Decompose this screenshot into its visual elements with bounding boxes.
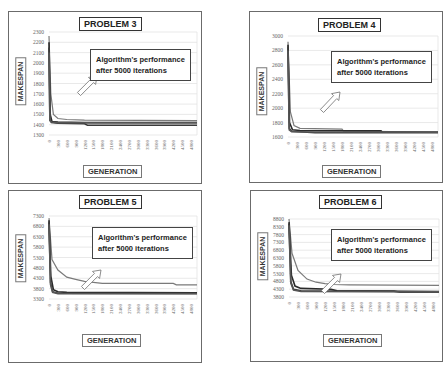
svg-text:3900: 3900 [162,140,167,151]
chart-panel-problem-4: 1600180020002200240026002800300003006009… [249,11,443,183]
x-axis-label: GENERATION [323,334,382,347]
svg-text:3800: 3800 [33,286,44,292]
svg-text:0: 0 [47,140,52,143]
svg-text:3300: 3300 [145,140,150,151]
svg-text:5300: 5300 [33,255,44,261]
svg-text:6300: 6300 [33,234,44,240]
svg-text:2400: 2400 [118,140,123,151]
arrow-icon [318,89,343,115]
svg-text:4500: 4500 [180,304,185,315]
svg-text:900: 900 [74,304,79,312]
svg-text:4200: 4200 [171,304,176,315]
x-axis-label: GENERATION [322,165,381,178]
svg-text:2700: 2700 [127,140,132,151]
chart-title: PROBLEM 6 [319,195,382,209]
y-axis-label: MAKESPAN [15,235,26,283]
svg-text:7300: 7300 [273,239,284,245]
annotation-box: Algorithm's performance after 5000 itera… [331,51,432,83]
svg-text:5800: 5800 [33,244,44,250]
svg-text:7300: 7300 [33,213,44,219]
annotation-line-2: after 5000 iterations [337,245,426,256]
svg-text:6800: 6800 [33,223,44,229]
svg-text:600: 600 [65,140,70,148]
svg-text:900: 900 [74,140,79,148]
svg-text:4800: 4800 [33,265,44,271]
svg-text:1500: 1500 [332,302,337,313]
svg-text:4800: 4800 [273,278,284,284]
svg-text:1800: 1800 [100,140,105,151]
svg-text:2600: 2600 [272,62,283,68]
svg-text:3000: 3000 [376,142,381,153]
svg-text:600: 600 [304,142,309,150]
chart-title: PROBLEM 4 [318,18,381,32]
svg-text:2700: 2700 [367,142,372,153]
svg-text:2400: 2400 [272,76,283,82]
svg-text:1700: 1700 [33,91,44,97]
svg-text:3300: 3300 [145,304,150,315]
chart-panel-problem-3: 1300140015001600170018001900200021002200… [8,11,202,184]
svg-text:2700: 2700 [127,304,132,315]
svg-text:1500: 1500 [33,111,44,117]
svg-text:1200: 1200 [323,302,328,313]
annotation-box: Algorithm's performance after 5000 itera… [92,227,193,259]
svg-text:2400: 2400 [358,142,363,153]
svg-text:600: 600 [305,302,310,310]
svg-text:2100: 2100 [349,142,354,153]
svg-text:2200: 2200 [33,39,44,45]
svg-text:2300: 2300 [33,29,44,35]
svg-text:2100: 2100 [109,140,114,151]
svg-text:3000: 3000 [136,304,141,315]
chart-panel-problem-6: 3800430048005300580063006800730078008300… [250,190,443,362]
svg-text:4800: 4800 [431,302,436,313]
svg-text:4300: 4300 [273,286,284,292]
svg-text:2800: 2800 [272,47,283,53]
svg-text:3600: 3600 [394,142,399,153]
svg-text:1800: 1800 [33,81,44,87]
svg-text:3300: 3300 [33,296,44,302]
svg-text:1800: 1800 [341,302,346,313]
svg-text:2700: 2700 [368,302,373,313]
annotation-line-1: Algorithm's performance [98,232,187,243]
svg-text:4200: 4200 [412,142,417,153]
svg-text:3000: 3000 [136,140,141,151]
svg-text:4500: 4500 [422,302,427,313]
svg-text:3900: 3900 [162,304,167,315]
svg-text:2100: 2100 [350,302,355,313]
svg-text:1600: 1600 [33,101,44,107]
svg-text:4200: 4200 [171,140,176,151]
svg-text:1200: 1200 [322,142,327,153]
svg-text:1600: 1600 [272,134,283,140]
chart-title: PROBLEM 3 [79,17,142,31]
svg-text:300: 300 [56,140,61,148]
svg-text:900: 900 [313,142,318,150]
svg-text:2000: 2000 [33,60,44,66]
svg-text:4200: 4200 [413,302,418,313]
svg-text:1500: 1500 [91,140,96,151]
svg-text:4800: 4800 [430,142,435,153]
svg-text:3600: 3600 [154,140,159,151]
svg-text:8800: 8800 [273,216,284,222]
svg-text:1800: 1800 [272,120,283,126]
svg-text:900: 900 [314,302,319,310]
svg-text:2400: 2400 [359,302,364,313]
svg-text:3000: 3000 [377,302,382,313]
svg-text:1500: 1500 [331,142,336,153]
annotation-line-1: Algorithm's performance [337,56,426,67]
svg-text:0: 0 [286,142,291,145]
svg-text:300: 300 [296,302,301,310]
annotation-line-2: after 5000 iterations [337,67,426,78]
svg-text:3000: 3000 [272,33,283,39]
svg-text:4500: 4500 [180,140,185,151]
svg-text:4800: 4800 [189,140,194,151]
y-axis-label: MAKESPAN [15,58,26,106]
svg-text:2400: 2400 [118,304,123,315]
svg-text:5800: 5800 [273,263,284,269]
svg-text:3800: 3800 [273,294,284,300]
svg-text:3900: 3900 [404,302,409,313]
arrow-icon [79,266,104,291]
y-axis-label: MAKESPAN [257,233,268,281]
svg-text:300: 300 [295,142,300,150]
svg-text:0: 0 [47,304,52,307]
annotation-line-2: after 5000 iterations [96,65,185,76]
svg-text:1200: 1200 [83,140,88,151]
